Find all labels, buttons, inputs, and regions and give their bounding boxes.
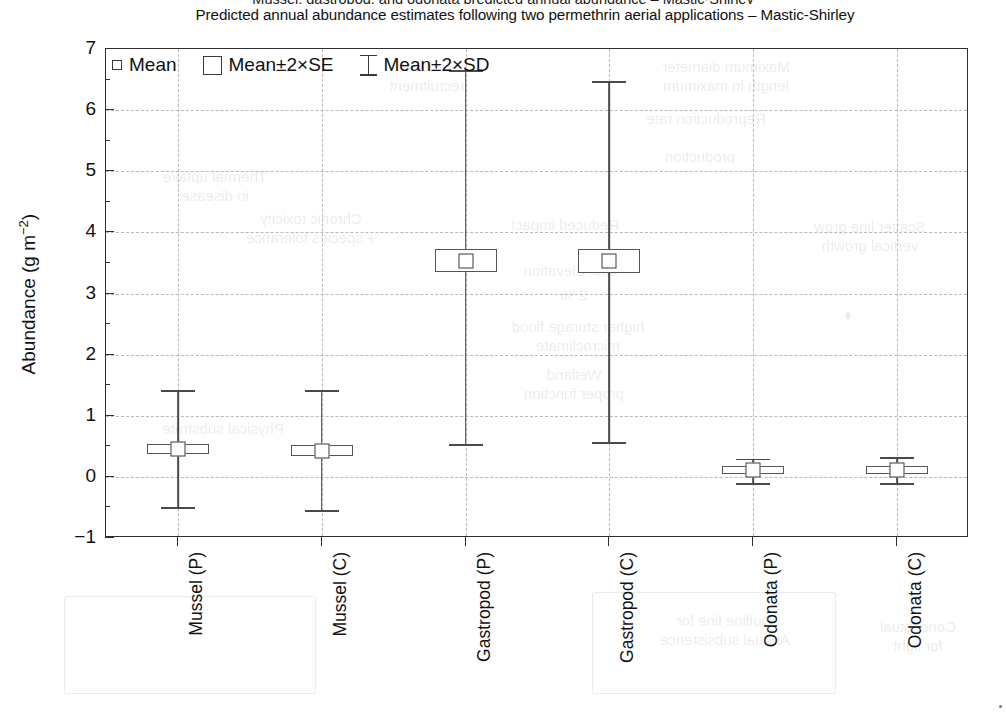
chart-title: Predicted annual abundance estimates fol…	[50, 6, 1000, 23]
legend-item-se: Mean±2×SE	[203, 54, 334, 76]
x-tick-5	[896, 537, 897, 546]
y-tick-label--1: −1	[52, 526, 96, 548]
y-tick--1	[105, 537, 114, 538]
gridline-y-6	[106, 110, 967, 111]
x-tick-label-5: Odonata (C)	[905, 552, 926, 714]
y-tick-label-3: 3	[52, 282, 96, 304]
sd-whisker-cap-upper	[880, 457, 914, 459]
legend-label-se: Mean±2×SE	[229, 54, 334, 76]
mean-marker	[458, 254, 473, 269]
x-tick-label-3: Gastropod (C)	[617, 552, 638, 714]
y-tick-label-4: 4	[52, 220, 96, 242]
x-tick-label-1: Mussel (C)	[330, 552, 351, 714]
x-tick-4	[752, 537, 753, 546]
legend-label-mean: Mean	[129, 54, 177, 76]
y-axis-title-close: )	[18, 214, 39, 220]
mean-marker	[170, 441, 185, 456]
y-tick-label-1: 1	[52, 404, 96, 426]
sd-whisker-cap-lower	[880, 483, 914, 485]
y-tick-label-0: 0	[52, 465, 96, 487]
sd-whisker-cap-lower	[736, 483, 770, 485]
chart-legend: Mean Mean±2×SE Mean±2×SD	[112, 54, 516, 76]
x-tick-1	[321, 537, 322, 546]
mean-marker	[314, 443, 329, 458]
x-tick-label-4: Odonata (P)	[761, 552, 782, 714]
sd-whisker-cap-lower	[449, 444, 483, 446]
gridline-y-1	[106, 416, 967, 417]
sd-whisker-cap-upper	[736, 459, 770, 461]
whisker-marker-icon	[360, 55, 377, 76]
plot-area	[105, 48, 968, 537]
gridline-y-5	[106, 171, 967, 172]
x-tick-0	[177, 537, 178, 546]
mean-marker	[746, 463, 761, 478]
sd-whisker-cap-upper	[592, 81, 626, 83]
sd-whisker-cap-lower	[305, 510, 339, 512]
gridline-y-2	[106, 355, 967, 356]
y-axis-title: Abundance (g m−2)	[16, 114, 40, 474]
y-axis-title-text: Abundance (g m	[18, 235, 39, 374]
chart-canvas: Abundance (g m−2) −101234567 Mussel (P)M…	[0, 0, 1006, 714]
mean-marker	[602, 254, 617, 269]
gridline-y-4	[106, 232, 967, 233]
y-tick-label-6: 6	[52, 98, 96, 120]
box-marker-icon	[203, 56, 222, 75]
x-tick-label-2: Gastropod (P)	[474, 552, 495, 714]
y-tick-label-2: 2	[52, 343, 96, 365]
cut-off-caption-line: Mussel, gastropod, and odonata predicted…	[0, 0, 1006, 4]
y-tick-label-5: 5	[52, 159, 96, 181]
legend-item-mean: Mean	[112, 54, 177, 76]
sd-whisker-cap-upper	[305, 390, 339, 392]
small-square-marker-icon	[112, 60, 122, 70]
sd-whisker-cap-lower	[161, 507, 195, 509]
gridline-y-0	[106, 477, 967, 478]
gridline-y-3	[106, 294, 967, 295]
x-tick-3	[608, 537, 609, 546]
x-tick-2	[465, 537, 466, 546]
legend-label-sd: Mean±2×SD	[384, 54, 490, 76]
y-tick-label-7: 7	[52, 37, 96, 59]
legend-item-sd: Mean±2×SD	[360, 54, 490, 76]
sd-whisker-cap-lower	[592, 442, 626, 444]
mean-marker	[890, 463, 905, 478]
sd-whisker-cap-upper	[161, 390, 195, 392]
x-tick-label-0: Mussel (P)	[186, 552, 207, 714]
y-axis-exponent: −2	[16, 220, 31, 235]
